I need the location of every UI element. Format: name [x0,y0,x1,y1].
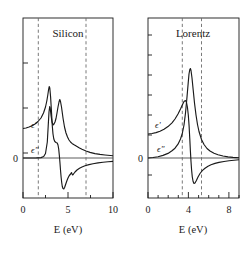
x-tick-label-0: 0 [21,204,26,215]
x-tick-label-2: 10 [108,204,118,215]
label-epsilon-imag: ϵ" [157,144,165,154]
x-axis-label: E (eV) [179,224,208,236]
panel-title-lorentz: Lorentz [176,27,210,39]
y-axis-ticks [148,35,152,175]
y-tick-label-zero: 0 [138,153,143,164]
y-axis-ticks [23,63,28,153]
figure-dielectric-functions: Silicon ϵ' ϵ" 0 0 5 10 E (eV) [0,0,250,254]
label-epsilon-real: ϵ' [155,120,162,130]
plot-frame [148,18,239,198]
x-tick-label-2: 8 [226,204,231,215]
plot-frame [23,18,113,198]
panel-lorentz: Lorentz ϵ' ϵ" 0 0 4 8 E (eV) [125,0,250,254]
x-tick-label-0: 0 [146,204,151,215]
y-tick-label-zero: 0 [13,153,18,164]
x-tick-label-1: 5 [66,204,71,215]
x-axis-ticks [148,192,239,198]
label-epsilon-real: ϵ' [31,120,38,130]
x-tick-label-1: 4 [186,204,191,215]
panel-title-silicon: Silicon [52,27,84,39]
x-axis-label: E (eV) [54,224,83,236]
curve-lorentz-epsilon-real [148,101,239,184]
label-epsilon-imag: ϵ" [31,145,39,155]
panel-silicon: Silicon ϵ' ϵ" 0 0 5 10 E (eV) [0,0,125,254]
lorentz-plot-svg: Lorentz ϵ' ϵ" 0 0 4 8 E (eV) [125,0,250,254]
x-axis-ticks [23,192,113,198]
silicon-plot-svg: Silicon ϵ' ϵ" 0 0 5 10 E (eV) [0,0,125,254]
